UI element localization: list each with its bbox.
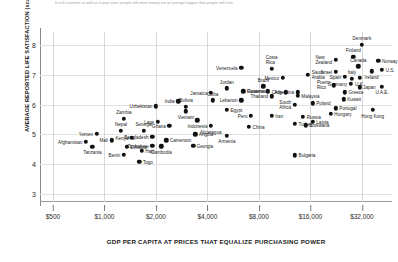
data-point-label: Benin [109, 152, 121, 157]
data-point[interactable] [90, 145, 94, 149]
data-point-label: Uzbekistan [130, 104, 153, 109]
data-point-label: Vietnam [178, 115, 195, 120]
data-point[interactable] [343, 74, 347, 78]
x-axis-tick-mark [362, 205, 363, 211]
data-point[interactable] [122, 152, 126, 156]
data-point[interactable] [167, 124, 171, 128]
data-point[interactable] [122, 117, 126, 121]
data-point[interactable] [350, 76, 354, 80]
data-point-label: Tanzania [83, 150, 101, 155]
x-axis-tick-mark [156, 205, 157, 211]
x-axis-tick-label: $16,000 [299, 213, 323, 220]
data-point-label: Mali [99, 138, 107, 143]
data-point[interactable] [334, 57, 338, 61]
data-point[interactable] [211, 98, 215, 102]
data-point-label: Haiti [145, 148, 154, 153]
data-point-label: SouthAfrica [279, 100, 291, 110]
data-point-label: Chile [272, 90, 282, 95]
data-point[interactable] [376, 59, 380, 63]
data-point[interactable] [348, 82, 352, 86]
data-point[interactable] [328, 111, 332, 115]
chart-subtitle: In rich countries as well as in poor one… [55, 1, 385, 5]
y-axis-tick-label: 3 [20, 190, 36, 197]
x-axis-tick-mark [104, 205, 105, 211]
data-point[interactable] [84, 140, 88, 144]
data-point-label: Botswana [309, 123, 329, 128]
data-point[interactable] [370, 108, 374, 112]
data-point-label: Poland [316, 101, 330, 106]
data-point[interactable] [380, 85, 384, 89]
gridline-vertical [104, 32, 105, 202]
data-point[interactable] [191, 143, 195, 147]
gridline-horizontal [40, 194, 392, 195]
data-point[interactable] [303, 123, 307, 127]
data-point[interactable] [195, 118, 199, 122]
x-axis-tick-label: $8,000 [249, 213, 269, 220]
data-point[interactable] [269, 94, 273, 98]
gridline-vertical [259, 32, 260, 202]
data-point[interactable] [241, 89, 245, 93]
y-axis-line [40, 28, 41, 206]
data-point[interactable] [184, 109, 188, 113]
data-point-label: Egypt [231, 108, 243, 113]
y-axis-tick-label: 4 [20, 161, 36, 168]
data-point[interactable] [249, 114, 253, 118]
data-point[interactable] [142, 129, 146, 133]
data-point[interactable] [209, 124, 213, 128]
data-point[interactable] [343, 90, 347, 94]
data-point[interactable] [159, 144, 163, 148]
data-point[interactable] [334, 106, 338, 110]
y-axis-title: AVERAGE REPORTED LIFE SATISFACTION (scal… [24, 0, 30, 138]
data-point-label: CostaRica [266, 55, 278, 65]
data-point[interactable] [293, 122, 297, 126]
data-point[interactable] [269, 114, 273, 118]
data-point[interactable] [154, 104, 158, 108]
gridline-horizontal [40, 45, 392, 46]
data-point-label: Spain [330, 74, 342, 79]
data-point-label: Canada [350, 58, 366, 63]
data-point[interactable] [150, 135, 154, 139]
data-point[interactable] [369, 69, 373, 73]
data-point[interactable] [225, 86, 229, 90]
data-point[interactable] [150, 143, 154, 147]
data-point[interactable] [119, 129, 123, 133]
data-point[interactable] [247, 125, 251, 129]
data-point[interactable] [164, 138, 168, 142]
data-point[interactable] [225, 134, 229, 138]
data-point[interactable] [139, 148, 143, 152]
data-point-label: India [165, 99, 175, 104]
data-point[interactable] [341, 97, 345, 101]
data-point[interactable] [225, 108, 229, 112]
data-point-label: Malaysia [301, 93, 319, 98]
data-point[interactable] [125, 145, 129, 149]
data-point-label: U.A.E. [375, 90, 388, 95]
data-point-label: Angola [199, 132, 213, 137]
data-point[interactable] [380, 67, 384, 71]
x-axis-tick-label: $500 [46, 213, 60, 220]
data-point[interactable] [293, 102, 297, 106]
data-point[interactable] [296, 94, 300, 98]
data-point[interactable] [109, 138, 113, 142]
data-point[interactable] [293, 153, 297, 157]
data-point[interactable] [280, 76, 284, 80]
data-point[interactable] [239, 98, 243, 102]
data-point[interactable] [356, 64, 360, 68]
x-axis-line [40, 201, 392, 202]
gridline-horizontal [40, 164, 392, 165]
x-axis-tick-label: $1,000 [94, 213, 114, 220]
data-point[interactable] [332, 83, 336, 87]
data-point-label: SaudiArabia [312, 70, 325, 80]
data-point-label: Japan [363, 85, 376, 90]
gridline-vertical [156, 32, 157, 202]
data-point[interactable] [239, 65, 243, 69]
data-point[interactable] [269, 67, 273, 71]
data-point[interactable] [130, 136, 134, 140]
data-point-label: Thailand [250, 94, 268, 99]
x-axis-tick-mark [259, 205, 260, 211]
x-axis-tick-label: $4,000 [197, 213, 217, 220]
data-point[interactable] [261, 84, 265, 88]
data-point[interactable] [301, 114, 305, 118]
data-point-label: Jordan [220, 80, 234, 85]
data-point[interactable] [193, 132, 197, 136]
data-point-label: Guatemala [247, 89, 269, 94]
